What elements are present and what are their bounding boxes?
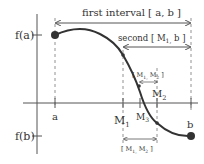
third-interval-bottom-label: [ M1, M2 ] — [121, 145, 153, 154]
second-interval-label: second [ M1, b ] — [118, 33, 186, 44]
M1-label: M1 — [114, 114, 130, 129]
point-fb — [187, 132, 195, 140]
fb-label: f(b) — [15, 130, 35, 143]
fa-label: f(a) — [15, 29, 34, 42]
point-fa — [51, 31, 59, 39]
M3-label: M3 — [136, 112, 149, 123]
point-M3 — [137, 84, 141, 88]
bisection-diagram: f(a) f(b) first interval [ a, b ] second… — [0, 0, 204, 164]
third-interval-top-label: [ M1, M2 ] — [132, 71, 164, 80]
a-label: a — [52, 111, 58, 122]
point-M1 — [121, 53, 125, 57]
M2-label: M2 — [152, 88, 166, 102]
b-label: b — [187, 119, 193, 130]
point-M2 — [155, 121, 159, 125]
first-interval-label: first interval [ a, b ] — [82, 7, 181, 18]
